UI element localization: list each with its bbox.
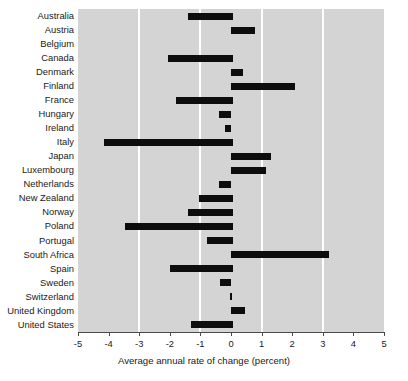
x-tick-label-neg1: -1 (187, 338, 213, 349)
x-tick-3 (323, 332, 324, 336)
category-label-france: France (0, 95, 74, 104)
x-tick-5 (384, 332, 385, 336)
x-axis-title: Average annual rate of change (percent) (0, 355, 408, 366)
x-tick-label-0: 0 (218, 338, 244, 349)
x-tick-label-neg3: -3 (126, 338, 152, 349)
bar-norway (188, 209, 232, 216)
x-tick-neg1 (200, 332, 201, 336)
category-label-australia: Australia (0, 11, 74, 20)
x-tick-label-2: 2 (279, 338, 305, 349)
x-tick-1 (262, 332, 263, 336)
bar-austria (231, 27, 255, 34)
x-tick-0 (231, 332, 232, 336)
bar-hungary (219, 111, 231, 118)
bar-japan (231, 153, 271, 160)
category-label-united-states: United States (0, 320, 74, 329)
bar-spain (170, 265, 233, 272)
bar-ireland (225, 125, 231, 132)
category-label-south-africa: South Africa (0, 250, 74, 259)
bar-netherlands (219, 181, 231, 188)
category-label-austria: Austria (0, 25, 74, 34)
category-label-united-kingdom: United Kingdom (0, 306, 74, 315)
category-label-luxembourg: Luxembourg (0, 165, 74, 174)
bar-united-states (191, 321, 232, 328)
bar-finland (231, 83, 295, 90)
bar-luxembourg (231, 167, 266, 174)
bar-poland (125, 223, 232, 230)
x-tick-neg3 (139, 332, 140, 336)
x-tick-2 (292, 332, 293, 336)
gridline-neg3 (138, 9, 140, 332)
bar-sweden (220, 279, 231, 286)
x-tick-neg5 (78, 332, 79, 336)
category-label-belgium: Belgium (0, 39, 74, 48)
category-label-norway: Norway (0, 207, 74, 216)
bar-denmark (231, 69, 243, 76)
category-label-canada: Canada (0, 53, 74, 62)
gridline-3 (322, 9, 324, 332)
category-label-hungary: Hungary (0, 109, 74, 118)
x-tick-label-1: 1 (249, 338, 275, 349)
bar-south-africa (231, 251, 329, 258)
x-tick-label-neg5: -5 (65, 338, 91, 349)
plot-area (78, 9, 384, 332)
x-tick-neg2 (170, 332, 171, 336)
category-label-japan: Japan (0, 151, 74, 160)
category-label-portugal: Portugal (0, 236, 74, 245)
x-tick-label-4: 4 (340, 338, 366, 349)
x-tick-neg4 (109, 332, 110, 336)
bar-italy (104, 139, 233, 146)
category-label-sweden: Sweden (0, 278, 74, 287)
bar-new-zealand (199, 195, 233, 202)
chart-container: AustraliaAustriaBelgiumCanadaDenmarkFinl… (0, 0, 408, 381)
category-label-switzerland: Switzerland (0, 292, 74, 301)
bar-united-kingdom (231, 307, 245, 314)
category-axis-labels: AustraliaAustriaBelgiumCanadaDenmarkFinl… (0, 9, 74, 332)
x-tick-label-5: 5 (371, 338, 397, 349)
category-label-italy: Italy (0, 137, 74, 146)
x-tick-label-3: 3 (310, 338, 336, 349)
category-label-new-zealand: New Zealand (0, 193, 74, 202)
bar-portugal (207, 237, 233, 244)
bar-france (176, 97, 233, 104)
x-tick-label-neg2: -2 (157, 338, 183, 349)
bar-switzerland (230, 293, 231, 300)
x-tick-4 (353, 332, 354, 336)
category-label-denmark: Denmark (0, 67, 74, 76)
bar-canada (168, 55, 232, 62)
bar-australia (188, 13, 232, 20)
category-label-finland: Finland (0, 81, 74, 90)
category-label-poland: Poland (0, 221, 74, 230)
x-tick-label-neg4: -4 (96, 338, 122, 349)
category-label-ireland: Ireland (0, 123, 74, 132)
category-label-spain: Spain (0, 264, 74, 273)
category-label-netherlands: Netherlands (0, 179, 74, 188)
